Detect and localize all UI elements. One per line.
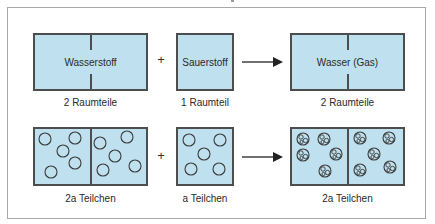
oxygen-caption: 1 Raumteil xyxy=(165,97,245,108)
top-marker xyxy=(231,0,234,2)
water-vapour-volume-box: Wasser (Gas) xyxy=(290,33,405,91)
oxygen-particles-caption: a Teilchen xyxy=(165,193,245,204)
arrow-icon-top xyxy=(242,56,284,68)
oxygen-particles xyxy=(178,129,232,184)
hydrogen-particles xyxy=(35,129,146,184)
box-divider-top xyxy=(90,35,92,50)
box-divider-top xyxy=(347,35,349,50)
water-vapour-caption: 2 Raumteile xyxy=(290,97,405,108)
water-molecules-caption: 2a Teilchen xyxy=(290,193,405,204)
hydrogen-volume-box: Wasserstoff xyxy=(33,33,148,91)
oxygen-label: Sauerstoff xyxy=(178,57,232,68)
hydrogen-particles-caption: 2a Teilchen xyxy=(33,193,148,204)
arrow-icon-bottom xyxy=(242,151,284,163)
water-vapour-label: Wasser (Gas) xyxy=(292,57,403,68)
hydrogen-particles-box xyxy=(33,127,148,186)
plus-sign-bottom: + xyxy=(154,148,168,163)
oxygen-volume-box: Sauerstoff xyxy=(176,33,234,91)
hydrogen-label: Wasserstoff xyxy=(35,57,146,68)
oxygen-particles-box xyxy=(176,127,234,186)
water-molecules-box xyxy=(290,127,405,186)
hydrogen-caption: 2 Raumteile xyxy=(33,97,148,108)
box-divider-bottom xyxy=(90,74,92,89)
plus-sign-top: + xyxy=(154,52,168,67)
water-molecules xyxy=(292,129,403,184)
box-divider-bottom xyxy=(347,74,349,89)
